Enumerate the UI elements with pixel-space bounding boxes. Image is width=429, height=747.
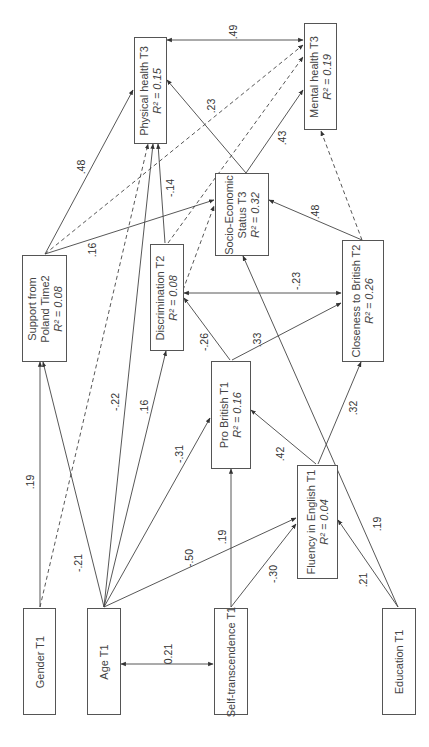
node-physical-health-t3: Physical health T3 R² = 0.15	[134, 37, 167, 144]
node-label-line2: Poland Time2	[38, 275, 51, 342]
coef-ses-physical: .23	[205, 99, 217, 114]
coef-education-fluency: .21	[357, 573, 369, 588]
node-label: Fluency in English T1	[305, 470, 318, 575]
coef-physical-mental: .49	[227, 25, 239, 40]
coef-age-discrimination: .16	[138, 400, 150, 415]
node-label: Physical health T3	[138, 46, 151, 136]
node-label-line1: Socio-Economic	[223, 175, 236, 254]
node-label: Education T1	[393, 629, 406, 694]
node-label-line1: Support from	[25, 275, 38, 342]
coef-education-ses: .19	[371, 517, 383, 532]
coef-fluency-probritish: .42	[274, 447, 286, 462]
node-label: Mental health T3	[308, 36, 321, 118]
coef-probritish-discrimination: -.26	[198, 333, 210, 351]
node-self-transcendence-t1: Self-transcendence T1	[214, 608, 248, 715]
coef-ses-mental: .43	[276, 131, 288, 146]
coef-selftranscendence-fluency: -.30	[267, 565, 279, 583]
path-diagram: Physical health T3 R² = 0.15 Mental heal…	[0, 0, 429, 747]
node-label: Age T1	[98, 644, 111, 679]
node-support-from-poland-time2: Support from Poland Time2 R² = 0.08	[22, 255, 67, 362]
node-label: Pro British T1	[218, 382, 231, 448]
coef-age-probritish: -.31	[173, 445, 185, 463]
node-r2: R² = 0.26	[363, 245, 376, 358]
coef-support-ses: .16	[86, 243, 98, 258]
node-socio-economic-status-t3: Socio-Economic Status T3 R² = 0.32	[215, 173, 269, 256]
coef-fluency-closeness: .32	[347, 401, 359, 416]
node-label-line2: Status T3	[236, 175, 249, 254]
node-r2: R² = 0.04	[318, 470, 331, 575]
node-closeness-to-british-t2: Closeness to British T2 R² = 0.26	[342, 240, 384, 362]
coef-age-fluency: -.50	[183, 549, 195, 567]
coef-age-support: -.21	[72, 554, 84, 572]
coef-selftranscendence-probritish: .19	[216, 530, 228, 545]
node-label: Gender T1	[33, 635, 46, 687]
node-label: Self-transcendence T1	[225, 606, 238, 716]
coef-gender-support: .19	[24, 475, 36, 490]
node-gender-t1: Gender T1	[23, 608, 56, 715]
node-r2: R² = 0.08	[167, 255, 180, 340]
coef-age-physical: -.22	[109, 393, 121, 411]
coef-age-selftranscendence: 0.21	[162, 644, 174, 664]
node-label: Discrimination T2	[154, 255, 167, 340]
node-age-t1: Age T1	[87, 608, 121, 715]
coef-discrimination-physical: -.14	[164, 179, 176, 197]
node-label: Closeness to British T2	[350, 245, 363, 358]
coef-closeness-discrimination: -.23	[290, 272, 302, 290]
node-r2: R² = 0.19	[321, 36, 334, 118]
coef-support-physical: .48	[75, 160, 87, 175]
node-pro-british-t1: Pro British T1 R² = 0.16	[211, 361, 251, 469]
node-education-t1: Education T1	[382, 608, 416, 715]
coef-probritish-closeness: .33	[251, 333, 263, 348]
node-mental-health-t3: Mental health T3 R² = 0.19	[304, 23, 337, 130]
node-fluency-in-english-t1: Fluency in English T1 R² = 0.04	[297, 465, 338, 579]
node-r2: R² = 0.15	[151, 46, 164, 136]
node-r2: R² = 0.16	[231, 382, 244, 448]
node-discrimination-t2: Discrimination T2 R² = 0.08	[150, 244, 184, 351]
node-r2: R² = 0.32	[249, 175, 262, 254]
coef-closeness-ses: .48	[309, 205, 321, 220]
node-r2: R² = 0.08	[51, 275, 64, 342]
